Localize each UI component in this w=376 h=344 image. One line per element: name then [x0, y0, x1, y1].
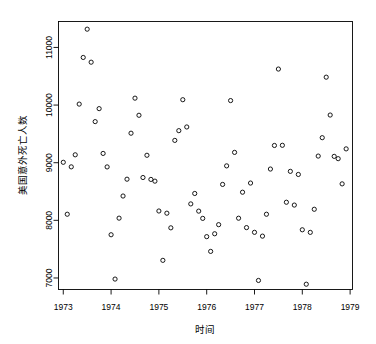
y-tick-label: 11000	[45, 36, 55, 59]
x-tick-label: 1978	[293, 302, 312, 312]
scatter-plot-figure: 7000800090001000011000 19731974197519761…	[0, 0, 376, 344]
x-tick-label: 1975	[149, 302, 168, 312]
x-tick-label: 1977	[245, 302, 264, 312]
x-tick-label: 1979	[341, 302, 360, 312]
y-tick-label: 9000	[45, 153, 55, 172]
x-axis-title: 时间	[195, 324, 215, 335]
x-tick-label: 1976	[197, 302, 216, 312]
y-tick-label: 8000	[45, 211, 55, 230]
figure-background	[0, 0, 376, 344]
y-axis-title: 美国意外死亡人数	[17, 115, 28, 195]
x-tick-label: 1974	[102, 302, 121, 312]
y-tick-label: 7000	[45, 268, 55, 287]
x-tick-label: 1973	[54, 302, 73, 312]
chart-canvas: 7000800090001000011000 19731974197519761…	[0, 0, 376, 344]
y-tick-label: 10000	[45, 93, 55, 117]
